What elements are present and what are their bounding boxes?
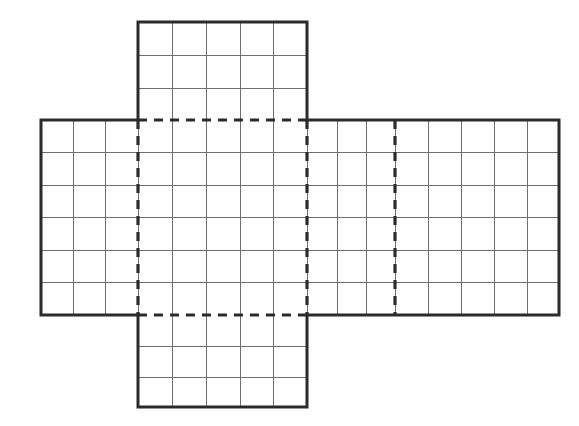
net-diagram-svg [0,0,579,426]
top-flap-fill [138,22,307,120]
cube-net-figure [0,0,579,426]
bottom-flap-fill [138,315,307,407]
